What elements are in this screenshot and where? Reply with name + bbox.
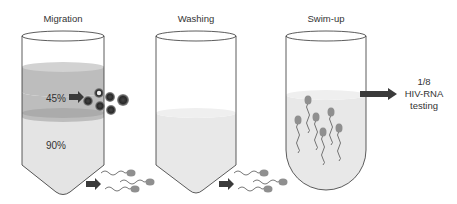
- tube-swim-up: [286, 31, 366, 190]
- result-test-name: HIV-RNA: [405, 88, 444, 99]
- sperm-group-1: [101, 170, 155, 193]
- tube-washing: [156, 31, 236, 193]
- step-label-migration: Migration: [43, 13, 82, 24]
- step-label-washing: Washing: [178, 13, 215, 24]
- arrow-icon: [219, 178, 234, 190]
- step-label-swim-up: Swim-up: [308, 13, 345, 24]
- sperm-washing-diagram: Migration 45% 90% Washing: [0, 0, 457, 204]
- layer-90-label: 90%: [46, 140, 66, 151]
- result-fraction: 1/8: [417, 76, 430, 87]
- result-test-word: testing: [410, 100, 438, 111]
- sperm-group-2: [234, 170, 288, 193]
- arrow-icon: [86, 178, 101, 190]
- layer-45-label: 45%: [46, 93, 66, 104]
- tube-migration: [22, 31, 104, 195]
